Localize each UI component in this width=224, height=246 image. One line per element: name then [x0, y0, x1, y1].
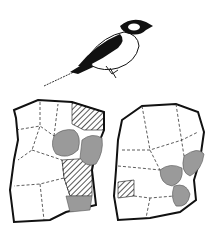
- illustration-canvas: [0, 0, 224, 246]
- gray-territory: [52, 130, 79, 157]
- territory-map-left: [10, 100, 104, 222]
- bird-cheek: [128, 24, 140, 31]
- gray-territory: [80, 135, 102, 165]
- gray-territory: [66, 196, 92, 212]
- gray-territory: [183, 150, 204, 176]
- territory-map-right: [114, 104, 204, 220]
- hatched-territory: [118, 180, 134, 198]
- bird-illustration: [44, 20, 153, 86]
